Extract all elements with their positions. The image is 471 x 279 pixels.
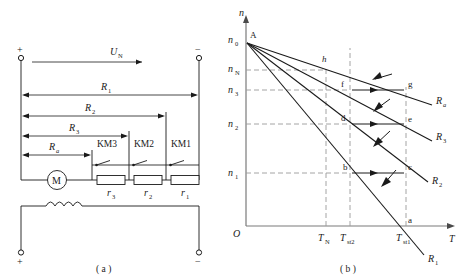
x-tick-label-Tst1: T xyxy=(396,232,403,243)
resistor-r1-body xyxy=(171,176,199,185)
supply-voltage-label: U xyxy=(110,46,118,57)
km3-label: KM3 xyxy=(97,139,117,149)
y-tick-label-n0: n xyxy=(228,34,233,45)
y-tick-sublabel-nN: N xyxy=(235,69,240,76)
x-tick-sublabel-TN: N xyxy=(325,238,330,245)
operating-point-d: d xyxy=(341,113,346,123)
span-ra-arrow-left xyxy=(22,153,29,158)
resistor-r2-sublabel: 2 xyxy=(149,193,152,200)
span-r1-label: R xyxy=(100,81,107,92)
terminal-bottom-left-node xyxy=(18,250,23,255)
span-r1-sublabel: 1 xyxy=(108,87,111,94)
span-r3-label: R xyxy=(68,122,75,133)
curve-label-r3: R xyxy=(435,131,442,142)
span-r3-sublabel: 3 xyxy=(76,128,79,135)
panel-a-circuit: + − U N R 1 R 2 xyxy=(17,44,202,275)
panel-a-caption: ( a ) xyxy=(96,264,111,275)
curve-line-ra xyxy=(247,43,432,105)
terminal-top-right-node xyxy=(196,55,201,60)
curve-sublabel-r2: 2 xyxy=(439,181,442,188)
km2-contact-blade[interactable] xyxy=(134,161,148,166)
curve-label-r1: R xyxy=(427,253,434,264)
y-tick-label-n1: n xyxy=(228,167,233,178)
supply-voltage-arrowhead xyxy=(136,60,142,65)
figure-root: + − U N R 1 R 2 xyxy=(0,0,471,279)
y-tick-sublabel-n2: 2 xyxy=(235,124,238,131)
x-tick-sublabel-Tst2: st2 xyxy=(347,238,355,245)
operating-point-b: b xyxy=(343,162,348,172)
terminal-bottom-left-label: + xyxy=(17,256,23,267)
x-axis-label: T xyxy=(449,233,456,244)
operating-point-f: f xyxy=(341,79,344,89)
resistor-r1-sublabel: 1 xyxy=(186,193,189,200)
y-tick-label-nN: n xyxy=(228,63,233,74)
curve-label-r2: R xyxy=(431,175,438,186)
resistor-r2-label: r xyxy=(144,187,148,198)
span-r2-sublabel: 2 xyxy=(92,108,95,115)
curve-label-ra: R xyxy=(435,95,442,106)
span-ra-sublabel: a xyxy=(56,147,59,154)
field-winding-coil xyxy=(46,202,82,206)
operating-point-g: g xyxy=(408,79,413,89)
y-tick-label-n3: n xyxy=(228,84,233,95)
km1-contact-blade[interactable] xyxy=(171,161,185,166)
transition-arrow-g-to-h-head xyxy=(372,72,382,80)
x-tick-label-Tst2: T xyxy=(340,232,347,243)
y-tick-label-n2: n xyxy=(228,118,233,129)
y-tick-sublabel-n3: 3 xyxy=(235,90,238,97)
curve-sublabel-ra: a xyxy=(443,101,446,108)
span-r2-label: R xyxy=(84,102,91,113)
km3-contact-blade[interactable] xyxy=(97,161,111,166)
resistor-r2-body xyxy=(134,176,162,185)
operating-point-c: c xyxy=(408,162,412,172)
span-r1-arrow-left xyxy=(22,93,29,98)
span-r2-arrow-right xyxy=(158,114,165,119)
y-axis-label: n xyxy=(239,7,244,18)
km1-label: KM1 xyxy=(171,139,191,149)
panel-b-chart: n T O n 0 n N n 3 n 2 n 1 T N xyxy=(228,7,456,275)
resistor-r3-sublabel: 3 xyxy=(112,193,115,200)
transition-arrow-a-to-b-head xyxy=(381,177,391,187)
transition-arrow-b-to-c-head xyxy=(370,170,378,176)
operating-point-a: a xyxy=(408,215,412,225)
resistor-r3-label: r xyxy=(107,187,111,198)
motor-label: M xyxy=(52,175,61,186)
span-r3-arrow-right xyxy=(121,134,128,139)
supply-voltage-sublabel: N xyxy=(118,52,123,59)
operating-point-h: h xyxy=(322,54,327,64)
technical-figure: + − U N R 1 R 2 xyxy=(0,0,471,279)
curve-line-r1 xyxy=(247,43,424,255)
origin-label: O xyxy=(233,228,240,239)
transition-arrow-f-to-g-head xyxy=(370,87,378,93)
y-tick-sublabel-n1: 1 xyxy=(235,173,238,180)
y-tick-sublabel-n0: 0 xyxy=(235,40,238,47)
transition-arrow-d-to-e-head xyxy=(370,121,378,127)
point-a-label: A xyxy=(250,30,257,40)
panel-b-caption: ( b ) xyxy=(340,264,356,275)
transition-arrow-e-to-f-head xyxy=(373,102,383,112)
curve-sublabel-r3: 3 xyxy=(443,137,446,144)
curve-line-r2 xyxy=(247,43,428,182)
terminal-bottom-right-label: − xyxy=(195,256,201,267)
km2-label: KM2 xyxy=(134,139,154,149)
x-tick-label-TN: T xyxy=(318,232,325,243)
terminal-top-left-label: + xyxy=(17,44,23,55)
span-r2-arrow-left xyxy=(22,114,29,119)
resistor-r3-body xyxy=(97,176,125,185)
resistor-r1-label: r xyxy=(181,187,185,198)
span-r3-arrow-left xyxy=(22,134,29,139)
operating-point-e: e xyxy=(408,114,412,124)
x-axis-arrowhead xyxy=(447,223,455,229)
span-ra-label: R xyxy=(48,141,55,152)
span-r1-arrow-right xyxy=(191,93,198,98)
terminal-top-right-label: − xyxy=(195,44,201,55)
x-tick-sublabel-Tst1: st1 xyxy=(403,238,411,245)
terminal-top-left-node xyxy=(18,55,23,60)
terminal-bottom-right-node xyxy=(196,250,201,255)
span-ra-arrow-right xyxy=(84,153,91,158)
curve-sublabel-r1: 1 xyxy=(435,259,438,266)
curve-line-r3 xyxy=(247,43,432,141)
